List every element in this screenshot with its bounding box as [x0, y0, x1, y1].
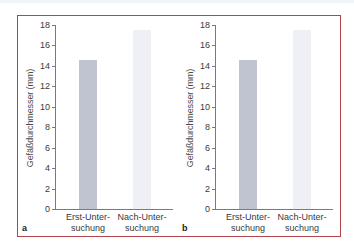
y-tick [52, 168, 55, 169]
x-category-label: Nach-Unter-suchung [272, 212, 332, 234]
panel-b: Gefäßdurchmesser (mm)024681012141618Erst… [178, 16, 338, 236]
y-tick-label: 16 [194, 40, 210, 50]
y-tick [212, 168, 215, 169]
y-tick [52, 127, 55, 128]
x-axis-line [55, 209, 173, 210]
y-tick [52, 25, 55, 26]
y-tick [212, 66, 215, 67]
y-tick-label: 12 [194, 81, 210, 91]
x-category-label-line: suchung [272, 223, 332, 234]
y-tick-label: 12 [34, 81, 50, 91]
y-tick-label: 10 [34, 102, 50, 112]
y-tick [212, 127, 215, 128]
y-tick [52, 66, 55, 67]
y-tick [212, 148, 215, 149]
x-category-label-line: Erst-Unter- [58, 212, 118, 223]
bar-erst-untersuchung [239, 60, 257, 209]
y-tick-label: 0 [34, 204, 50, 214]
y-axis-line [215, 25, 216, 210]
y-tick-label: 4 [34, 163, 50, 173]
y-tick [52, 45, 55, 46]
bar-nach-untersuchung [293, 30, 311, 209]
x-category-label: Erst-Unter-suchung [218, 212, 278, 234]
y-tick-label: 8 [34, 122, 50, 132]
panel-a: Gefäßdurchmesser (mm)024681012141618Erst… [18, 16, 178, 236]
y-tick-label: 6 [194, 143, 210, 153]
y-tick-label: 4 [194, 163, 210, 173]
y-tick [212, 45, 215, 46]
y-tick-label: 18 [34, 20, 50, 30]
y-tick-label: 14 [34, 61, 50, 71]
y-axis-line [55, 25, 56, 210]
y-tick-label: 2 [34, 184, 50, 194]
y-tick-label: 8 [194, 122, 210, 132]
y-tick [52, 189, 55, 190]
y-tick-label: 0 [194, 204, 210, 214]
panel-letter: a [22, 223, 27, 233]
y-tick-label: 10 [194, 102, 210, 112]
y-tick-label: 16 [34, 40, 50, 50]
y-tick [212, 25, 215, 26]
x-category-label: Nach-Unter-suchung [112, 212, 172, 234]
x-axis-line [215, 209, 333, 210]
top-band [0, 0, 354, 3]
x-category-label-line: Nach-Unter- [272, 212, 332, 223]
x-category-label-line: suchung [218, 223, 278, 234]
y-tick [52, 148, 55, 149]
bar-nach-untersuchung [133, 30, 151, 209]
x-category-label-line: Erst-Unter- [218, 212, 278, 223]
bar-erst-untersuchung [79, 60, 97, 209]
y-tick [212, 189, 215, 190]
x-category-label-line: Nach-Unter- [112, 212, 172, 223]
x-category-label-line: suchung [112, 223, 172, 234]
x-category-label: Erst-Unter-suchung [58, 212, 118, 234]
y-tick [52, 86, 55, 87]
y-tick-label: 14 [194, 61, 210, 71]
y-tick-label: 6 [34, 143, 50, 153]
y-tick [212, 107, 215, 108]
y-tick-label: 2 [194, 184, 210, 194]
y-tick [212, 86, 215, 87]
panel-letter: b [182, 223, 188, 233]
y-tick-label: 18 [194, 20, 210, 30]
y-tick [212, 209, 215, 210]
x-category-label-line: suchung [58, 223, 118, 234]
y-tick [52, 209, 55, 210]
y-tick [52, 107, 55, 108]
figure-frame: Gefäßdurchmesser (mm)024681012141618Erst… [17, 15, 341, 237]
